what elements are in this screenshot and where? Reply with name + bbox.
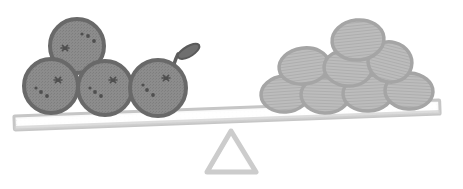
list-item: [78, 61, 132, 115]
balance-scale-figure: [0, 0, 463, 189]
list-item: [24, 59, 78, 113]
illustration-canvas: [0, 0, 463, 189]
list-item: [130, 60, 186, 116]
